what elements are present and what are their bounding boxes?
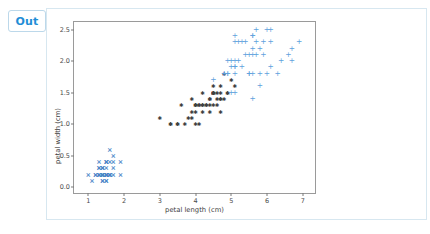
data-point: ✱	[218, 90, 223, 96]
data-point: ×	[107, 147, 112, 153]
data-point: +	[260, 39, 266, 45]
data-point: +	[250, 52, 256, 58]
data-point: +	[296, 39, 302, 45]
x-axis-label: petal length (cm)	[165, 206, 224, 214]
data-point: ×	[118, 172, 123, 178]
y-tick-mark	[71, 187, 74, 188]
plot-axes: ××××××××××××××××××××××××××××××××××××××××…	[73, 21, 316, 194]
data-point: +	[232, 90, 238, 96]
data-point: ✱	[197, 102, 202, 108]
data-point: ✱	[215, 96, 220, 102]
plot-area: ××××××××××××××××××××××××××××××××××××××××…	[74, 22, 315, 193]
data-point: ✱	[193, 109, 198, 115]
data-point: +	[242, 39, 248, 45]
data-point: +	[250, 33, 256, 39]
data-point: ×	[100, 172, 105, 178]
data-point: ✱	[182, 121, 187, 127]
data-point: +	[232, 71, 238, 77]
data-point: ✱	[207, 96, 212, 102]
data-point: +	[289, 58, 295, 64]
x-tick-mark	[88, 193, 89, 196]
data-point: +	[267, 39, 273, 45]
data-point: ✱	[215, 102, 220, 108]
data-point: ×	[118, 159, 123, 165]
x-tick-mark	[195, 193, 196, 196]
data-point: ✱	[207, 109, 212, 115]
data-point: +	[239, 64, 245, 70]
y-tick-mark	[71, 155, 74, 156]
data-point: ✱	[218, 83, 223, 89]
data-point: ✱	[197, 121, 202, 127]
data-point: ×	[86, 172, 91, 178]
data-point: ✱	[211, 83, 216, 89]
data-point: ✱	[186, 115, 191, 121]
y-axis-label: petal width (cm)	[54, 108, 62, 164]
data-point: +	[257, 83, 263, 89]
data-point: ×	[100, 178, 105, 184]
data-point: +	[275, 71, 281, 77]
x-tick-mark	[159, 193, 160, 196]
data-point: ✱	[175, 121, 180, 127]
data-point: +	[242, 52, 248, 58]
scatter-figure: ××××××××××××××××××××××××××××××××××××××××…	[46, 8, 427, 220]
data-point: +	[289, 46, 295, 52]
data-point: +	[210, 77, 216, 83]
notebook-output-cell: Out ××××××××××××××××××××××××××××××××××××…	[0, 0, 430, 234]
data-point: +	[250, 96, 256, 102]
output-prompt-label: Out	[8, 10, 46, 32]
data-point: +	[221, 71, 227, 77]
y-tick-mark	[71, 92, 74, 93]
data-point: +	[246, 71, 252, 77]
data-point: ✱	[157, 115, 162, 121]
data-point: +	[250, 46, 256, 52]
data-point: ✱	[211, 90, 216, 96]
x-tick-mark	[302, 193, 303, 196]
data-point: +	[278, 58, 284, 64]
data-point: +	[264, 71, 270, 77]
data-point: +	[235, 58, 241, 64]
data-point: ×	[89, 178, 94, 184]
data-point: +	[267, 27, 273, 33]
data-point: ✱	[229, 77, 234, 83]
data-point: +	[253, 27, 259, 33]
data-point: +	[235, 39, 241, 45]
data-point: ✱	[179, 102, 184, 108]
data-point: ✱	[200, 109, 205, 115]
data-point: ✱	[200, 90, 205, 96]
data-point: +	[260, 52, 266, 58]
y-tick-mark	[71, 124, 74, 125]
data-point: ✱	[204, 102, 209, 108]
x-tick-mark	[231, 193, 232, 196]
data-point: ✱	[218, 109, 223, 115]
data-point: ✱	[190, 96, 195, 102]
y-tick-mark	[71, 29, 74, 30]
data-point: ✱	[222, 96, 227, 102]
y-tick-mark	[71, 61, 74, 62]
data-point: +	[257, 71, 263, 77]
x-tick-mark	[124, 193, 125, 196]
data-point: +	[267, 64, 273, 70]
x-tick-mark	[266, 193, 267, 196]
data-point: ✱	[168, 121, 173, 127]
